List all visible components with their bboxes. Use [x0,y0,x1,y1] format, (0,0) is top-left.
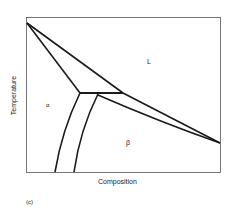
region-label-liquid: L [147,58,151,65]
y-axis-label: Temperature [10,71,17,121]
beta-solidus-line [98,95,220,143]
region-label-beta: β [126,139,130,146]
liquidus-line [27,23,220,143]
alpha-solidus-line [27,23,80,93]
x-axis-label: Composition [98,178,137,185]
plot-frame [27,18,221,173]
beta-solvus-line [74,94,98,172]
region-label-alpha: α [46,102,49,108]
figure-caption: (c) [26,199,33,205]
